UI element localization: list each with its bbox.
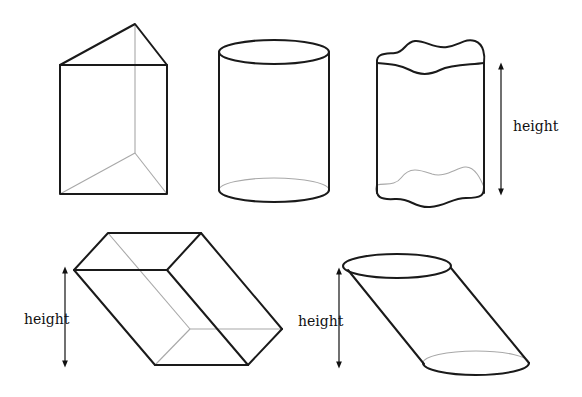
height-label: height (513, 118, 559, 134)
height-dimension-irregular-cylinder: height (501, 66, 559, 192)
irregular-cylinder (377, 40, 485, 207)
height-label: height (298, 313, 344, 329)
height-dimension-oblique-cylinder: height (298, 271, 344, 365)
triangular-prism (60, 24, 167, 194)
height-dimension-oblique-prism: height (24, 270, 70, 364)
oblique-cylinder (343, 254, 529, 375)
right-cylinder (219, 40, 329, 202)
height-label: height (24, 311, 70, 327)
geometry-figure: height height height (0, 0, 582, 397)
oblique-prism (74, 233, 282, 365)
